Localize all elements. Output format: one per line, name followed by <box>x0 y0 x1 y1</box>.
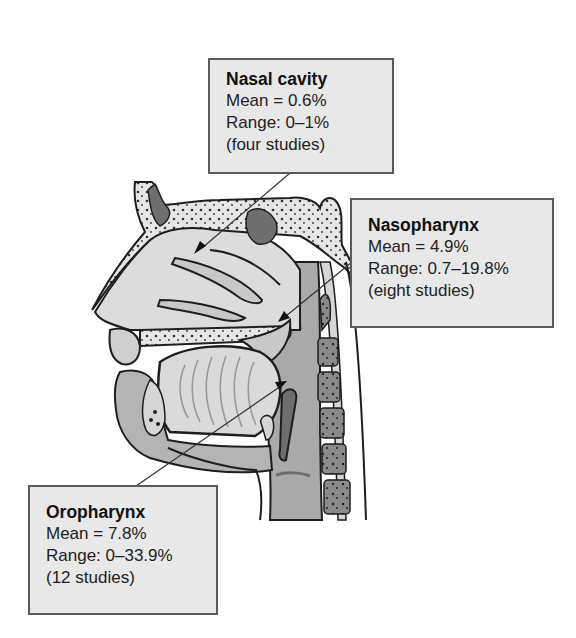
region-mean: Mean = 7.8% <box>46 523 216 545</box>
region-title: Nasal cavity <box>226 68 392 90</box>
region-studies: (four studies) <box>226 134 392 156</box>
region-range: Range: 0–33.9% <box>46 545 216 567</box>
label-box-nasal-cavity: Nasal cavity Mean = 0.6% Range: 0–1% (fo… <box>208 58 394 174</box>
upper-lip <box>110 329 141 365</box>
region-mean: Mean = 4.9% <box>368 236 552 258</box>
region-mean: Mean = 0.6% <box>226 90 392 112</box>
region-studies: (eight studies) <box>368 280 552 302</box>
label-box-oropharynx: Oropharynx Mean = 7.8% Range: 0–33.9% (1… <box>28 485 218 615</box>
region-title: Oropharynx <box>46 501 216 523</box>
region-range: Range: 0.7–19.8% <box>368 258 552 280</box>
label-box-nasopharynx: Nasopharynx Mean = 4.9% Range: 0.7–19.8%… <box>350 198 554 328</box>
region-title: Nasopharynx <box>368 214 552 236</box>
region-range: Range: 0–1% <box>226 112 392 134</box>
region-studies: (12 studies) <box>46 567 216 589</box>
